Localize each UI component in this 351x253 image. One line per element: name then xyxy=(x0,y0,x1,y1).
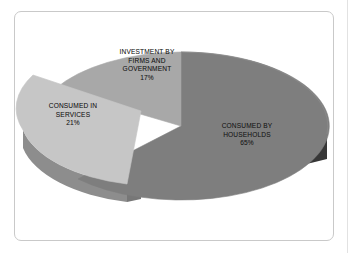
slide-frame: INVESTMENT BY FIRMS AND GOVERNMENT 17% C… xyxy=(14,11,334,241)
pie-chart: INVESTMENT BY FIRMS AND GOVERNMENT 17% C… xyxy=(15,12,335,242)
investment-label-line3: GOVERNMENT xyxy=(99,65,195,74)
slice-label-households: CONSUMED BY HOUSEHOLDS 65% xyxy=(201,122,293,148)
households-value: 65% xyxy=(201,139,293,148)
right-edge-rule xyxy=(347,0,348,253)
services-label-line1: CONSUMED IN xyxy=(27,102,119,111)
investment-value: 17% xyxy=(99,74,195,83)
investment-label-line1: INVESTMENT BY xyxy=(99,48,195,57)
slice-label-services: CONSUMED IN SERVICES 21% xyxy=(27,102,119,128)
slice-label-investment: INVESTMENT BY FIRMS AND GOVERNMENT 17% xyxy=(99,48,195,82)
services-value: 21% xyxy=(27,119,119,128)
investment-label-line2: FIRMS AND xyxy=(99,57,195,66)
households-label-line2: HOUSEHOLDS xyxy=(201,131,293,140)
services-label-line2: SERVICES xyxy=(27,111,119,120)
households-label-line1: CONSUMED BY xyxy=(201,122,293,131)
